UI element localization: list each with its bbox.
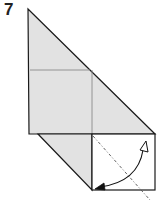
lower-colored-flap bbox=[38, 134, 92, 190]
upper-colored-flap bbox=[28, 9, 155, 134]
origami-diagram bbox=[0, 0, 160, 205]
